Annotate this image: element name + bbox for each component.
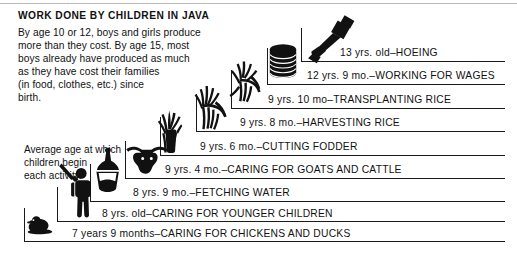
rung-label: 12 yrs. 9 mo.–WORKING FOR WAGES — [307, 70, 495, 81]
intro-line: as they have cost their families — [18, 65, 248, 78]
rung-label: 9 yrs. 4 mo.–CARING FOR GOATS AND CATTLE — [165, 164, 402, 175]
intro-line: more than they cost. By age 15, most — [18, 39, 248, 52]
coins-icon — [266, 42, 302, 84]
page-top-rule — [0, 3, 517, 4]
intro-line: boys already have produced as much — [18, 52, 248, 65]
rung-label: 9 yrs. 10 mo–TRANSPLANTING RICE — [268, 94, 451, 105]
rung-label: 8 yrs. 9 mo.–FETCHING WATER — [133, 187, 290, 198]
rung-label: 9 yrs. 6 mo.–CUTTING FODDER — [200, 141, 358, 152]
rung-line — [24, 241, 505, 242]
hoe-icon — [300, 14, 358, 64]
duck-icon — [22, 211, 62, 241]
rung-line — [125, 178, 505, 179]
rung-line — [160, 155, 505, 156]
rung-line — [267, 84, 505, 85]
water-vessel-icon — [93, 147, 127, 193]
intro-line: By age 10 or 12, boys and girls produce — [18, 26, 248, 39]
rung-line — [90, 201, 505, 202]
infographic-canvas: WORK DONE BY CHILDREN IN JAVA By age 10 … — [0, 0, 517, 258]
rung-label: 9 yrs. 8 mo.–HARVESTING RICE — [240, 117, 400, 128]
page-title: WORK DONE BY CHILDREN IN JAVA — [18, 10, 209, 21]
rung-label: 8 yrs. old–CARING FOR YOUNGER CHILDREN — [102, 208, 333, 219]
rung-line — [196, 131, 505, 132]
rung-label: 7 years 9 months–CARING FOR CHICKENS AND… — [72, 228, 350, 239]
rung-line — [57, 221, 505, 222]
